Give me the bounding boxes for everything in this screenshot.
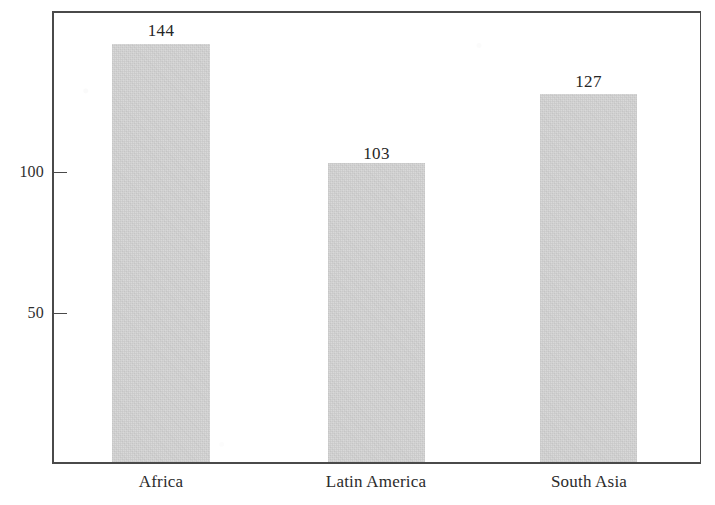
axis-right	[700, 11, 702, 463]
bar-africa[interactable]	[112, 44, 210, 462]
category-label-south-asia: South Asia	[509, 473, 669, 491]
bar-value-africa: 144	[111, 22, 211, 39]
bar-latin-america[interactable]	[328, 163, 425, 462]
ytick-mark-50	[53, 313, 67, 314]
bar-value-south-asia: 127	[539, 73, 638, 90]
ytick-mark-100	[53, 172, 67, 173]
category-label-latin-america: Latin America	[296, 473, 456, 491]
axis-top	[52, 11, 701, 13]
axis-left	[52, 11, 54, 463]
bar-south-asia[interactable]	[540, 94, 637, 462]
category-label-africa: Africa	[81, 473, 241, 491]
ytick-label-50: 50	[0, 305, 44, 321]
bar-value-latin-america: 103	[327, 145, 426, 162]
bar-chart: 100 50 144 103 127 Africa Latin America …	[0, 0, 715, 505]
ytick-label-100: 100	[0, 164, 44, 180]
